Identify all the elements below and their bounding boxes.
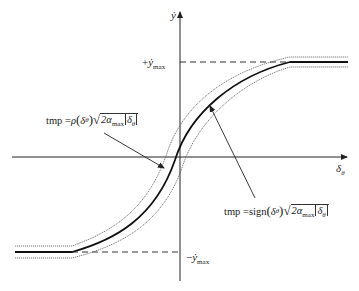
left-formula-abs-sub: θ xyxy=(132,120,135,128)
sqrt-sign-icon: √ xyxy=(93,112,100,128)
left-formula-coef: 2α xyxy=(101,114,112,125)
lower-limit-label: −ẏmax xyxy=(186,252,209,266)
right-formula-radicand: 2αmaxδθ xyxy=(291,204,329,219)
right-formula-abs: δθ xyxy=(315,205,327,216)
sqrt-sign-icon: √ xyxy=(283,203,290,219)
left-formula-sqrt: √ 2αmaxδθ xyxy=(93,112,138,128)
right-formula-lhs: tmp = xyxy=(224,206,249,217)
lower-bound-curve xyxy=(15,67,348,258)
y-axis-symbol: ẏ xyxy=(171,9,176,21)
upper-limit-subscript: max xyxy=(153,63,165,71)
right-formula-abs-sub: θ xyxy=(322,211,325,219)
right-formula-pointer xyxy=(210,106,255,198)
lower-limit-subscript: max xyxy=(197,258,209,266)
upper-limit-label: +ẏmax xyxy=(142,57,165,71)
right-formula-func: sign xyxy=(249,206,267,217)
x-axis-subscript: θ xyxy=(341,169,344,177)
right-formula-coef: 2α xyxy=(292,205,303,216)
diagram-canvas xyxy=(0,0,359,291)
right-formula-sqrt: √ 2αmaxδθ xyxy=(283,203,328,219)
left-formula-radicand: 2αmaxδθ xyxy=(100,113,138,128)
x-axis-label: δθ xyxy=(336,163,345,177)
left-formula-lhs: tmp = xyxy=(46,115,71,126)
left-formula: tmp = ρ (δθ) √ 2αmaxδθ xyxy=(46,112,138,128)
left-formula-pointer xyxy=(104,133,164,168)
right-formula: tmp = sign (δθ) √ 2αmaxδθ xyxy=(224,203,329,219)
left-formula-coef-sub: max xyxy=(112,120,124,128)
right-formula-coef-sub: max xyxy=(302,211,314,219)
left-formula-abs: δθ xyxy=(125,114,137,125)
y-axis-label: ẏ xyxy=(171,10,176,21)
